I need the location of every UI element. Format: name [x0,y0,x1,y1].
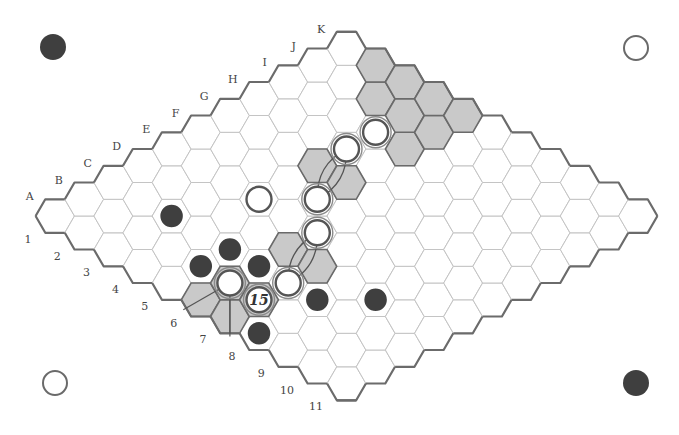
stone-white-B7: 15 [244,284,275,315]
row-label: 1 [25,233,32,246]
corner-stone-top-left [40,34,66,60]
row-label: 4 [112,283,119,296]
white-stone-disc [247,187,272,212]
hex-board-diagram: A1B2C3D4E5F6G7H8I9J10K11 15 [0,0,679,435]
row-label: 10 [280,384,294,397]
column-label: K [317,23,326,36]
column-label: A [25,190,35,203]
white-stone-disc [305,220,330,245]
column-label: I [262,56,266,69]
white-stone-disc [334,137,359,162]
black-stone-disc [188,254,213,279]
board-cells [36,32,658,401]
row-label: 8 [229,350,236,363]
column-label: H [228,73,238,86]
white-stone-disc [217,271,242,296]
stone-black-C5 [217,237,242,262]
stone-white-B6 [214,268,245,299]
column-label: B [55,174,63,187]
hex-board: A1B2C3D4E5F6G7H8I9J10K11 15 [0,0,679,435]
row-label: 6 [170,317,177,330]
stone-white-E4 [247,187,272,212]
corner-stone-top-right [624,36,648,60]
stone-black-C3 [159,204,184,229]
white-stone-disc [276,271,301,296]
column-label: J [290,40,295,53]
row-label: 11 [309,400,323,413]
black-stone-disc [217,237,242,262]
corner-stone-bottom-right [623,370,649,396]
white-stone-disc [363,120,388,145]
stone-white-I4 [360,117,391,148]
move-number-label: 15 [249,292,268,308]
column-label: F [172,107,180,120]
column-label: D [112,140,121,153]
black-stone-disc [247,321,272,346]
column-label: G [200,90,209,103]
corner-stone-bottom-left [43,371,67,395]
stone-white-E6 [302,217,333,248]
stone-black-B5 [188,254,213,279]
stone-white-F5 [302,184,333,215]
row-label: 7 [200,333,207,346]
stone-white-H4 [331,134,362,165]
stone-black-A8 [247,321,272,346]
row-label: 3 [83,266,90,279]
white-stone-disc [305,187,330,212]
row-label: 9 [258,367,265,380]
row-label: 5 [141,300,148,313]
black-stone-disc [247,254,272,279]
stone-black-C6 [247,254,272,279]
column-label: E [142,123,150,136]
stone-black-D9 [363,287,388,312]
row-label: 2 [54,250,61,263]
stone-black-C8 [305,287,330,312]
black-stone-disc [159,204,184,229]
stone-white-C7 [273,268,304,299]
column-label: C [83,157,91,170]
black-stone-disc [363,287,388,312]
black-stone-disc [305,287,330,312]
